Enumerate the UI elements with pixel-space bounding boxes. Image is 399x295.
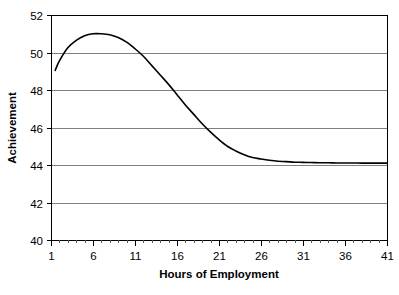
y-tick-label-52: 52 xyxy=(30,10,43,22)
x-tick-label-31: 31 xyxy=(297,250,310,262)
x-axis-title: Hours of Employment xyxy=(159,268,279,280)
x-axis: 1611162126313641 xyxy=(48,240,394,262)
x-tick-label-21: 21 xyxy=(213,250,226,262)
y-tick-label-46: 46 xyxy=(30,123,43,135)
x-tick-label-11: 11 xyxy=(130,250,142,262)
y-tick-label-40: 40 xyxy=(30,235,43,247)
chart-container: 40424446485052 1611162126313641 Hours of… xyxy=(0,0,399,295)
x-tick-label-16: 16 xyxy=(171,250,184,262)
y-axis-title: Achievement xyxy=(6,92,18,164)
plot-area-background xyxy=(51,15,387,240)
y-tick-label-50: 50 xyxy=(30,48,43,60)
line-chart: 40424446485052 1611162126313641 Hours of… xyxy=(0,0,399,295)
y-tick-label-44: 44 xyxy=(30,160,43,172)
x-tick-label-41: 41 xyxy=(381,250,394,262)
y-tick-label-42: 42 xyxy=(30,198,43,210)
x-tick-label-26: 26 xyxy=(255,250,268,262)
y-axis: 40424446485052 xyxy=(30,10,51,247)
x-tick-label-6: 6 xyxy=(90,250,96,262)
x-tick-label-1: 1 xyxy=(48,250,54,262)
y-tick-label-48: 48 xyxy=(30,85,43,97)
x-tick-label-36: 36 xyxy=(339,250,352,262)
